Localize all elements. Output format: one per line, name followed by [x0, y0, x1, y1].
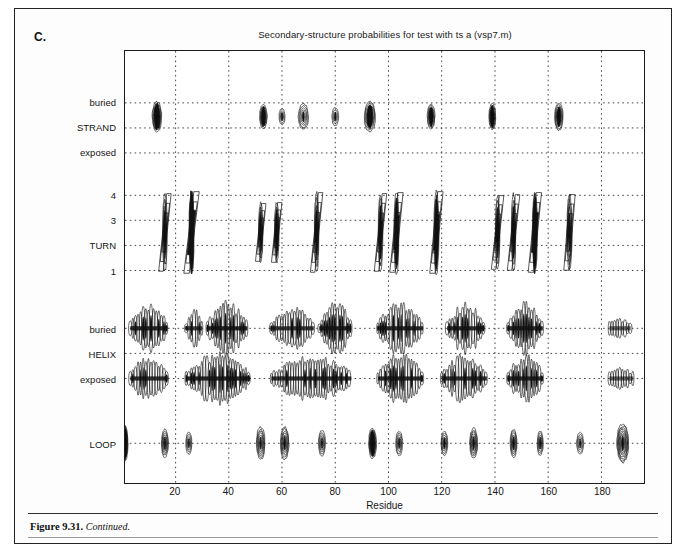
y-axis-label: 4	[20, 190, 116, 201]
chart-title: Secondary-structure probabilities for te…	[124, 29, 646, 40]
series-turn	[163, 190, 573, 275]
caption-number: Figure 9.31.	[30, 521, 83, 532]
y-axis-label: HELIX	[20, 348, 116, 359]
x-axis-tick-label: 20	[169, 486, 180, 497]
series-strand	[152, 101, 563, 132]
gridlines	[125, 51, 644, 483]
x-axis-title: Residue	[124, 500, 645, 511]
y-axis-label: LOOP	[20, 439, 116, 450]
x-axis-tick-label: 120	[434, 486, 451, 497]
contour-plot	[124, 50, 645, 484]
panel-letter: C.	[34, 30, 46, 44]
x-axis-tick-label: 140	[487, 486, 504, 497]
y-axis-label: buried	[20, 97, 116, 108]
y-axis-label: 3	[20, 215, 116, 226]
x-axis-tick-label: 180	[594, 486, 611, 497]
y-axis-label: buried	[20, 323, 116, 334]
y-axis-labels: buriedSTRANDexposed43TURN1buriedHELIXexp…	[20, 50, 120, 484]
x-axis-tick-label: 40	[223, 486, 234, 497]
y-axis-label: exposed	[20, 147, 116, 158]
caption-rule	[28, 513, 658, 514]
series-loop	[125, 424, 629, 463]
contour-canvas	[125, 51, 644, 483]
y-axis-label: exposed	[20, 374, 116, 385]
figure-caption: Figure 9.31. Continued.	[30, 521, 130, 532]
series-helix-exposed	[129, 352, 634, 406]
x-axis-tick-label: 100	[380, 486, 397, 497]
y-axis-label: 1	[20, 265, 116, 276]
scanned-page: C. Secondary-structure probabilities for…	[0, 0, 686, 560]
x-axis-tick-label: 60	[276, 486, 287, 497]
x-axis-tick-label: 80	[330, 486, 341, 497]
caption-rule-bottom	[28, 537, 658, 538]
y-axis-label: TURN	[20, 240, 116, 251]
y-axis-label: STRAND	[20, 122, 116, 133]
x-axis-tick-label: 160	[540, 486, 557, 497]
caption-text: Continued.	[86, 521, 130, 532]
series-turn-slants	[159, 192, 575, 274]
